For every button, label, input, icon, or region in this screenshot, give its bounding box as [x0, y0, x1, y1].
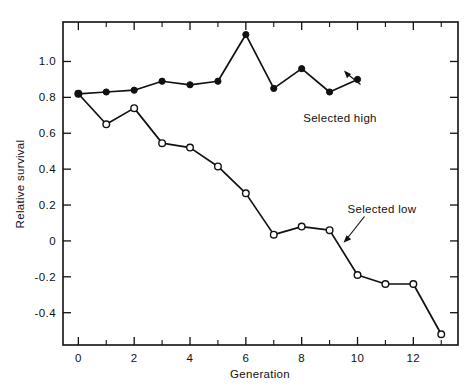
data-point [326, 89, 332, 95]
data-point [270, 231, 277, 238]
data-point [131, 105, 138, 112]
annotation-selected-low-label: Selected low [348, 203, 417, 215]
x-axis-title: Generation [230, 368, 290, 380]
x-tick-label: 8 [298, 352, 305, 364]
data-point [187, 144, 194, 151]
data-point [187, 82, 193, 88]
chart-background [0, 0, 473, 390]
data-point [103, 121, 110, 128]
y-tick-label: 0.2 [39, 199, 56, 211]
x-tick-label: 2 [131, 352, 138, 364]
data-point [410, 281, 417, 288]
data-point [438, 331, 445, 338]
data-point [159, 78, 165, 84]
y-tick-label: 0.4 [39, 163, 56, 175]
data-point [243, 190, 250, 197]
y-tick-label: 1.0 [39, 55, 56, 67]
data-point [75, 91, 81, 97]
x-tick-label: 4 [187, 352, 194, 364]
data-point [298, 223, 305, 230]
data-point [326, 227, 333, 234]
data-point [299, 66, 305, 72]
y-tick-label: -0.4 [35, 307, 57, 319]
chart-figure: 024681012 1.00.80.60.40.20-0.2-0.4 Selec… [0, 0, 473, 390]
data-point [382, 281, 389, 288]
y-tick-label: 0.8 [39, 91, 56, 103]
x-tick-label: 12 [407, 352, 421, 364]
data-point [103, 89, 109, 95]
data-point [131, 87, 137, 93]
x-tick-label: 6 [242, 352, 249, 364]
x-tick-label: 10 [351, 352, 365, 364]
annotation-selected-high-label: Selected high [303, 112, 377, 124]
data-point [215, 78, 221, 84]
data-point [354, 272, 361, 279]
y-tick-label: -0.2 [35, 271, 56, 283]
relative-survival-line-chart: 024681012 1.00.80.60.40.20-0.2-0.4 Selec… [0, 0, 473, 390]
data-point [271, 85, 277, 91]
data-point [243, 31, 249, 37]
y-axis-title: Relative survival [14, 140, 26, 229]
data-point [215, 163, 222, 170]
data-point [159, 140, 166, 147]
x-tick-label: 0 [75, 352, 82, 364]
y-tick-label: 0.6 [39, 127, 56, 139]
y-tick-label: 0 [49, 235, 56, 247]
